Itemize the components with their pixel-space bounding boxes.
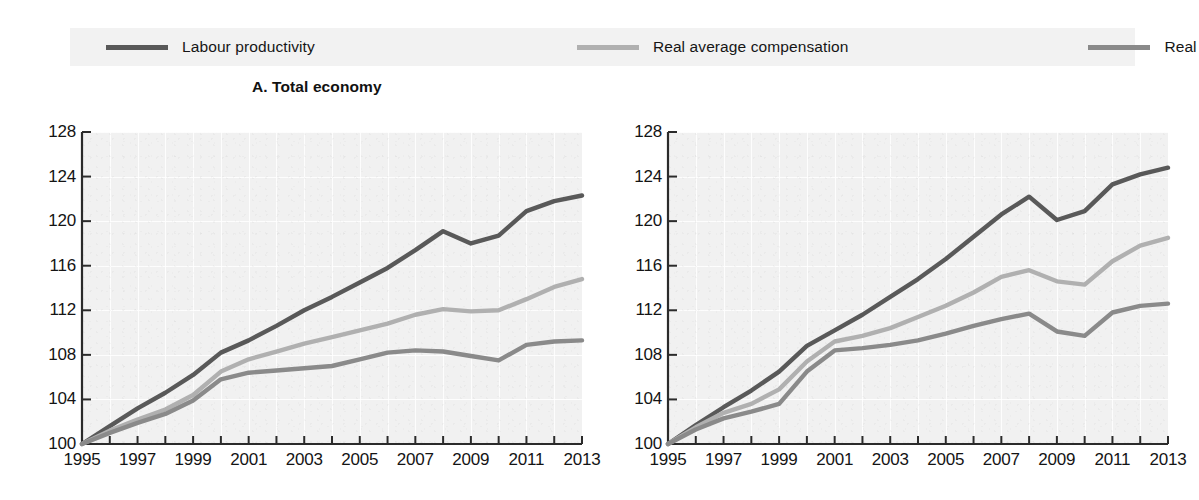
x-axis-tick-label: 2011 (1095, 450, 1131, 470)
x-axis-tick-label: 1995 (63, 450, 100, 470)
y-axis-tick-label: 104 (48, 389, 76, 409)
x-axis-tick-label: 2013 (1149, 450, 1186, 470)
y-axis-tick-label: 116 (49, 256, 76, 276)
x-axis-tick-label: 2001 (230, 450, 267, 470)
x-axis-tick-label: 1997 (705, 450, 742, 470)
panel-b-y-axis-labels: 100104108112116120124128 (616, 132, 662, 444)
series-line (668, 168, 1168, 444)
chart-figure: Labour productivity Real average compens… (0, 0, 1199, 500)
series-line (82, 196, 582, 444)
panel-a-x-axis-labels: 1995199719992001200320052007200920112013 (82, 450, 582, 474)
series-line (82, 279, 582, 444)
y-axis-tick-label: 124 (634, 167, 662, 187)
panel-a-title: A. Total economy (252, 78, 382, 96)
series-line (82, 340, 582, 444)
x-axis-tick-label: 2007 (983, 450, 1020, 470)
x-axis-tick-label: 1999 (175, 450, 212, 470)
y-axis-tick-label: 120 (48, 211, 76, 231)
x-axis-tick-label: 2005 (927, 450, 964, 470)
x-axis-tick-label: 2001 (816, 450, 853, 470)
y-axis-tick-label: 128 (634, 122, 662, 142)
y-axis-tick-label: 120 (634, 211, 662, 231)
x-axis-tick-label: 2009 (1038, 450, 1075, 470)
y-axis-tick-label: 112 (635, 300, 662, 320)
x-axis-tick-label: 2011 (509, 450, 545, 470)
x-axis-tick-label: 1997 (119, 450, 156, 470)
y-axis-tick-label: 124 (48, 167, 76, 187)
x-axis-tick-label: 1999 (761, 450, 798, 470)
panel-b-series-svg (668, 132, 1168, 444)
y-axis-tick-label: 104 (634, 389, 662, 409)
series-line (668, 304, 1168, 444)
panel-a-series-svg (82, 132, 582, 444)
x-axis-tick-label: 2007 (397, 450, 434, 470)
y-axis-tick-label: 108 (48, 345, 76, 365)
x-axis-tick-label: 1995 (649, 450, 686, 470)
panel-a-plot-area (82, 132, 582, 444)
y-axis-tick-label: 108 (634, 345, 662, 365)
y-axis-tick-label: 128 (48, 122, 76, 142)
panel-b-plot-area (668, 132, 1168, 444)
panel-a-y-axis-labels: 100104108112116120124128 (30, 132, 76, 444)
x-axis-tick-label: 2003 (286, 450, 323, 470)
y-axis-tick-label: 112 (49, 300, 76, 320)
y-axis-tick-label: 116 (635, 256, 662, 276)
x-axis-tick-label: 2013 (563, 450, 600, 470)
x-axis-tick-label: 2003 (872, 450, 909, 470)
x-axis-tick-label: 2009 (452, 450, 489, 470)
panel-b-x-axis-labels: 1995199719992001200320052007200920112013 (668, 450, 1168, 474)
x-axis-tick-label: 2005 (341, 450, 378, 470)
